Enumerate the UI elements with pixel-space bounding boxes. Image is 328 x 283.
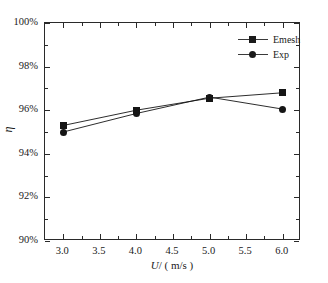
x-axis-minor-tick xyxy=(228,236,229,239)
data-point-exp xyxy=(60,129,67,136)
x-axis-tick-label: 4.5 xyxy=(152,246,192,257)
circle-marker-icon xyxy=(249,51,256,58)
legend-item-emesh: Emesh xyxy=(238,32,300,47)
y-axis-tick-label: 98% xyxy=(0,61,38,72)
x-axis-major-tick xyxy=(283,23,284,28)
x-axis-major-tick xyxy=(100,23,101,28)
x-axis-tick-label: 5.5 xyxy=(225,246,265,257)
x-axis-major-tick xyxy=(136,234,137,239)
data-point-emesh xyxy=(279,89,286,96)
y-axis-minor-tick xyxy=(45,219,48,220)
x-axis-minor-tick xyxy=(82,23,83,26)
x-axis-major-tick xyxy=(173,23,174,28)
y-axis-major-tick xyxy=(294,197,299,198)
x-axis-minor-tick xyxy=(118,23,119,26)
y-axis-major-tick xyxy=(45,67,50,68)
x-axis-major-tick xyxy=(63,23,64,28)
series-line-emesh xyxy=(63,93,282,126)
x-axis-tick-label: 4.0 xyxy=(115,246,155,257)
chart-legend: Emesh Exp xyxy=(238,32,300,62)
y-axis-major-tick xyxy=(45,110,50,111)
y-axis-major-tick xyxy=(294,241,299,242)
y-axis-major-tick xyxy=(45,241,50,242)
legend-sample-emesh xyxy=(238,34,268,45)
legend-sample-exp xyxy=(238,49,268,60)
x-axis-title-units: / ( m/s ) xyxy=(159,259,194,271)
x-axis-minor-tick xyxy=(82,236,83,239)
y-axis-tick-label: 100% xyxy=(0,17,38,28)
x-axis-tick-label: 3.0 xyxy=(42,246,82,257)
x-axis-major-tick xyxy=(246,234,247,239)
y-axis-tick-label: 92% xyxy=(0,191,38,202)
data-point-exp xyxy=(133,110,140,117)
y-axis-minor-tick xyxy=(45,176,48,177)
chart-figure: η U/ ( m/s ) Emesh Exp 90%92%94%96%98%10… xyxy=(0,0,328,283)
x-axis-minor-tick xyxy=(118,236,119,239)
y-axis-tick-label: 96% xyxy=(0,104,38,115)
x-axis-title: U/ ( m/s ) xyxy=(44,259,300,271)
square-marker-icon xyxy=(249,36,256,43)
y-axis-major-tick xyxy=(45,197,50,198)
x-axis-major-tick xyxy=(210,234,211,239)
y-axis-major-tick xyxy=(294,23,299,24)
y-axis-minor-tick xyxy=(296,176,299,177)
legend-label-emesh: Emesh xyxy=(273,35,300,45)
x-axis-minor-tick xyxy=(191,236,192,239)
y-axis-tick-label: 94% xyxy=(0,148,38,159)
y-axis-minor-tick xyxy=(45,45,48,46)
legend-item-exp: Exp xyxy=(238,47,300,62)
x-axis-minor-tick xyxy=(191,23,192,26)
x-axis-minor-tick xyxy=(264,23,265,26)
y-axis-minor-tick xyxy=(45,88,48,89)
x-axis-major-tick xyxy=(136,23,137,28)
y-axis-title: η xyxy=(1,127,16,133)
y-axis-major-tick xyxy=(294,67,299,68)
y-axis-major-tick xyxy=(294,110,299,111)
y-axis-minor-tick xyxy=(296,132,299,133)
x-axis-minor-tick xyxy=(264,236,265,239)
x-axis-major-tick xyxy=(63,234,64,239)
x-axis-minor-tick xyxy=(155,23,156,26)
x-axis-minor-tick xyxy=(155,236,156,239)
data-point-exp xyxy=(206,94,213,101)
x-axis-major-tick xyxy=(210,23,211,28)
y-axis-minor-tick xyxy=(296,219,299,220)
series-line-exp xyxy=(63,97,282,132)
y-axis-major-tick xyxy=(45,154,50,155)
x-axis-major-tick xyxy=(100,234,101,239)
x-axis-tick-label: 6.0 xyxy=(262,246,302,257)
x-axis-title-symbol: U xyxy=(151,259,159,271)
y-axis-minor-tick xyxy=(45,132,48,133)
y-axis-major-tick xyxy=(45,23,50,24)
x-axis-minor-tick xyxy=(228,23,229,26)
y-axis-minor-tick xyxy=(296,88,299,89)
data-point-emesh xyxy=(60,122,67,129)
y-axis-tick-label: 90% xyxy=(0,235,38,246)
x-axis-major-tick xyxy=(283,234,284,239)
x-axis-major-tick xyxy=(173,234,174,239)
x-axis-tick-label: 3.5 xyxy=(79,246,119,257)
data-point-exp xyxy=(279,106,286,113)
x-axis-major-tick xyxy=(246,23,247,28)
y-axis-major-tick xyxy=(294,154,299,155)
x-axis-tick-label: 5.0 xyxy=(189,246,229,257)
legend-label-exp: Exp xyxy=(273,50,289,60)
